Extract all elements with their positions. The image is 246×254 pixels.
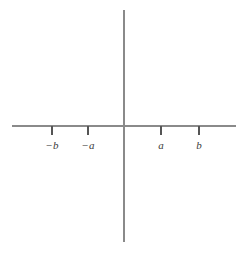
axes-canvas (0, 0, 246, 254)
tick-label-neg-b: −b (46, 140, 59, 151)
tick-label-pos-a: a (158, 140, 164, 151)
number-line-figure: −b −a a b (0, 0, 246, 254)
tick-label-neg-a: −a (82, 140, 95, 151)
tick-label-pos-b: b (196, 140, 202, 151)
